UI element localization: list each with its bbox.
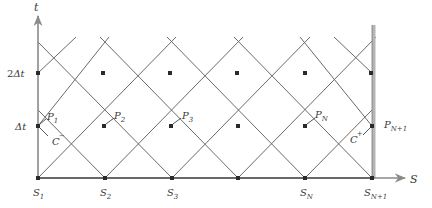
node [235, 71, 239, 75]
node [168, 71, 172, 75]
p3-leader [173, 118, 181, 124]
characteristic-lines [38, 37, 376, 178]
c-minus-line [234, 37, 372, 178]
t-axis-label: t [34, 1, 39, 14]
node [36, 71, 40, 75]
sn-label: SN [300, 187, 314, 201]
node [303, 71, 307, 75]
c-plus-leader [363, 128, 370, 135]
c-minus-line [334, 37, 372, 73]
node [103, 176, 107, 180]
p2-label: P2 [113, 110, 126, 124]
label-leaders [40, 118, 370, 136]
sn1-label: SN+1 [364, 187, 387, 201]
node [236, 176, 240, 180]
node [370, 176, 374, 180]
node [101, 71, 105, 75]
c-plus-label: C+ [350, 130, 363, 145]
s3-label: S3 [167, 187, 179, 201]
node [369, 71, 373, 75]
s2-label: S2 [100, 187, 112, 201]
node [170, 176, 174, 180]
node-p2 [102, 124, 106, 128]
pn-leader [307, 118, 315, 124]
node [36, 176, 40, 180]
pn1-label: PN+1 [383, 119, 407, 133]
node [236, 124, 240, 128]
c-minus-leader [40, 128, 48, 136]
node [303, 176, 307, 180]
node-pn [303, 124, 307, 128]
characteristic-grid-diagram: t S 2Δt Δt S1 S2 S3 SN SN+1 P1 P2 P3 PN … [0, 0, 432, 208]
c-minus-line [167, 37, 305, 178]
p2-leader [106, 118, 114, 124]
c-plus-line [105, 37, 243, 178]
node-p1 [36, 124, 40, 128]
c-plus-line [38, 37, 76, 73]
c-plus-line [172, 37, 310, 178]
p1-label: P1 [46, 111, 58, 125]
c-minus-line [300, 37, 372, 126]
node-p3 [169, 124, 173, 128]
diagram-canvas: t S 2Δt Δt S1 S2 S3 SN SN+1 P1 P2 P3 PN … [0, 0, 432, 208]
c-plus-line [238, 37, 376, 178]
right-boundary [372, 25, 376, 179]
s-axis-label: S [410, 173, 418, 186]
c-plus-line [38, 37, 176, 178]
t-tick-dt: Δt [14, 121, 27, 132]
grid-nodes [36, 71, 374, 180]
t-tick-2dt: 2Δt [7, 68, 26, 79]
s1-label: S1 [33, 187, 44, 201]
node-pn1 [370, 124, 374, 128]
c-minus-line [100, 37, 238, 178]
c-minus-label: C− [52, 132, 65, 147]
